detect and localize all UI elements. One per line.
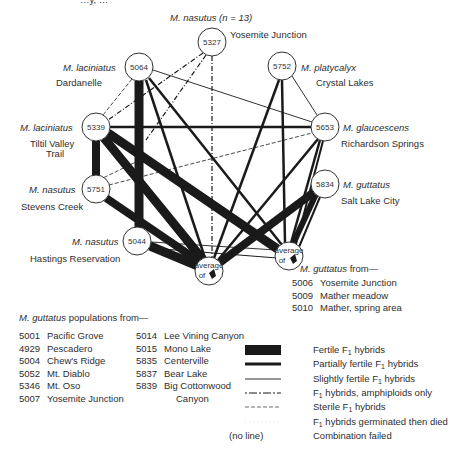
list-item: 5014Lee Vining Canyon xyxy=(136,330,244,343)
list-item: Canyon xyxy=(136,393,244,406)
no-line-label: (no line) xyxy=(229,430,263,441)
item-code: 5006 xyxy=(292,277,320,290)
legend-text: F1 hybrids, amphiploids only xyxy=(313,387,432,399)
legend-text: Combination failed xyxy=(313,430,392,441)
label-5339-locality-2: Trail xyxy=(46,148,64,159)
item-code: 5839 xyxy=(136,380,164,393)
item-name: Pescadero xyxy=(47,343,92,356)
node-5751-label: 5751 xyxy=(87,185,105,194)
right-group-species: M. guttatus xyxy=(300,263,347,274)
item-code: 5835 xyxy=(136,355,164,368)
legend-slight: Slightly fertile F1 hybrids xyxy=(245,372,448,386)
legend-text: Fertile F1 hybrids xyxy=(313,344,385,356)
item-code: 5004 xyxy=(19,355,47,368)
label-5834-species: M. guttatus xyxy=(343,179,390,190)
edge-5064-5339-sterile xyxy=(103,79,132,115)
legend-died: F1 hybrids germinated then died xyxy=(245,414,448,428)
list-item: 5007Yosemite Junction xyxy=(19,393,124,406)
populations-suffix: populations from— xyxy=(66,312,148,323)
item-code: 5009 xyxy=(292,290,320,303)
item-name: Bear Lake xyxy=(164,368,207,381)
label-5327-species: M. nasutus (n = 13) xyxy=(170,12,252,23)
item-code: 5010 xyxy=(292,302,320,315)
item-name: Big Cottonwood xyxy=(164,380,231,393)
item-name: Lee Vining Canyon xyxy=(164,330,244,343)
item-name-continued: Canyon xyxy=(164,393,209,406)
item-code: 4929 xyxy=(19,343,47,356)
cropped-caption: …y, … xyxy=(80,0,108,5)
node-5752-label: 5752 xyxy=(273,62,291,71)
legend-fertile: Fertile F1 hybrids xyxy=(245,343,448,357)
item-name: Mather meadow xyxy=(320,290,388,303)
right-group-suffix: from— xyxy=(347,263,378,274)
list-item: 5010Mather, spring area xyxy=(292,302,402,315)
node-5044-label: 5044 xyxy=(128,237,146,246)
populations-species: M. guttatus xyxy=(19,312,66,323)
label-5044-species: M. nasutus xyxy=(72,236,118,247)
item-name: Yosemite Junction xyxy=(320,277,397,290)
list-item: 5837Bear Lake xyxy=(136,368,244,381)
label-5339-species: M. laciniatus xyxy=(20,122,73,133)
item-name: Mather, spring area xyxy=(320,302,402,315)
list-item: 5835Centerville xyxy=(136,355,244,368)
legend-partial: Partially fertile F1 hybrids xyxy=(245,357,448,371)
item-name: Yosemite Junction xyxy=(47,393,124,406)
legend-text: Partially fertile F1 hybrids xyxy=(313,358,418,370)
list-item: 5009Mather meadow xyxy=(292,290,402,303)
label-5044-locality: Hastings Reservation xyxy=(30,253,120,264)
sterile-line-swatch-icon xyxy=(245,402,285,412)
slight-line-swatch-icon xyxy=(245,374,285,384)
label-5752-locality: Crystal Lakes xyxy=(316,77,374,88)
legend-text: Slightly fertile F1 hybrids xyxy=(313,373,415,385)
item-code: 5015 xyxy=(136,343,164,356)
legend-sterile: Sterile F1 hybrids xyxy=(245,400,448,414)
item-code: 5014 xyxy=(136,330,164,343)
populations-col1: 5001Pacific Grove 4929Pescadero 5004Chew… xyxy=(19,330,124,405)
list-item: 5052Mt. Diablo xyxy=(19,368,124,381)
partial-line-swatch-icon xyxy=(245,359,285,369)
label-5064-locality: Dardanelle xyxy=(56,77,102,88)
edge-5752-5653-slight xyxy=(292,76,317,115)
label-5653-locality: Richardson Springs xyxy=(341,138,424,149)
label-5751-species: M. nasutus xyxy=(29,184,75,195)
list-item: 5839Big Cottonwood xyxy=(136,380,244,393)
item-code: 5346 xyxy=(19,380,47,393)
item-name: Mt. Diablo xyxy=(47,368,90,381)
list-item: 5004Chew's Ridge xyxy=(19,355,124,368)
list-item: 5001Pacific Grove xyxy=(19,330,124,343)
item-name: Centerville xyxy=(164,355,209,368)
node-5339-label: 5339 xyxy=(87,123,105,132)
item-name: Pacific Grove xyxy=(47,330,104,343)
label-5064-species: M. laciniatus xyxy=(63,62,116,73)
list-item: 5015Mono Lake xyxy=(136,343,244,356)
legend-text: Sterile F1 hybrids xyxy=(313,401,386,413)
label-5653-species: M. glaucescens xyxy=(343,122,409,133)
item-name: Mono Lake xyxy=(164,343,211,356)
list-item: 5346Mt. Oso xyxy=(19,380,124,393)
died-line-swatch-icon xyxy=(245,417,285,427)
node-5834-label: 5834 xyxy=(316,180,334,189)
right-group-list: 5006Yosemite Junction 5009Mather meadow … xyxy=(292,277,402,315)
label-5834-locality: Salt Lake City xyxy=(341,195,400,206)
item-code: 5052 xyxy=(19,368,47,381)
legend-amphiploid: F1 hybrids, amphiploids only xyxy=(245,386,448,400)
avg-right-line1: average xyxy=(275,246,304,255)
legend-text: F1 hybrids germinated then died xyxy=(313,416,448,428)
amphiploid-line-swatch-icon xyxy=(245,388,285,398)
item-name: Chew's Ridge xyxy=(47,355,105,368)
item-name: Mt. Oso xyxy=(47,380,80,393)
label-5327-locality: Yosemite Junction xyxy=(230,29,307,40)
legend: Fertile F1 hybrids Partially fertile F1 … xyxy=(245,343,448,443)
node-5653-label: 5653 xyxy=(316,123,334,132)
item-code: 5837 xyxy=(136,368,164,381)
right-group-heading: M. guttatus from— xyxy=(300,263,378,274)
list-item: 5006Yosemite Junction xyxy=(292,277,402,290)
node-5064-label: 5064 xyxy=(130,63,148,72)
label-5752-species: M. platycalyx xyxy=(301,62,356,73)
avg-left-line2: of xyxy=(199,271,206,280)
node-5327-label: 5327 xyxy=(203,38,221,47)
avg-right-line2: of xyxy=(279,256,286,265)
populations-heading: M. guttatus populations from— xyxy=(19,312,148,323)
legend-none: (no line) Combination failed xyxy=(245,429,448,443)
item-code: 5001 xyxy=(19,330,47,343)
